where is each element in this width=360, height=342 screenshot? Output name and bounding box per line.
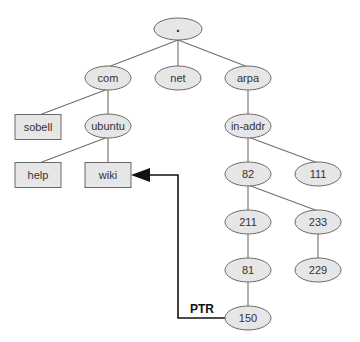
- node-help: help: [15, 163, 61, 188]
- node-label: wiki: [98, 169, 117, 181]
- node-n81: 81: [225, 258, 271, 282]
- node-n233: 233: [295, 210, 341, 234]
- ptr-arrow-line: [149, 175, 225, 318]
- node-label: net: [170, 72, 185, 84]
- node-label: com: [98, 72, 119, 84]
- node-n150: 150: [225, 306, 271, 330]
- ptr-pointer: PTR: [131, 168, 225, 318]
- node-inaddr: in-addr: [225, 114, 271, 138]
- node-label: 81: [242, 264, 254, 276]
- node-sobell: sobell: [15, 115, 61, 140]
- edge-root-arpa: [178, 40, 248, 67]
- node-label: 82: [242, 168, 254, 180]
- edge-inaddr-n111: [248, 137, 318, 163]
- dns-tree-diagram: PTR .comnetarpasobellubuntuin-addrhelpwi…: [0, 0, 360, 342]
- node-label: sobell: [24, 121, 53, 133]
- node-wiki: wiki: [85, 163, 131, 188]
- node-n111: 111: [295, 162, 341, 186]
- node-label: 229: [309, 264, 327, 276]
- node-root: .: [154, 18, 202, 40]
- node-arpa: arpa: [225, 66, 271, 90]
- node-net: net: [155, 66, 201, 90]
- arrowhead-icon: [131, 168, 150, 182]
- node-label: 111: [310, 168, 327, 180]
- node-label: arpa: [237, 72, 260, 84]
- node-label: in-addr: [231, 120, 266, 132]
- node-ubuntu: ubuntu: [85, 114, 131, 138]
- node-n211: 211: [225, 210, 271, 234]
- node-n229: 229: [295, 258, 341, 282]
- node-label: help: [28, 169, 49, 181]
- node-n82: 82: [225, 162, 271, 186]
- node-label: 233: [309, 216, 327, 228]
- node-com: com: [85, 66, 131, 90]
- edge-ubuntu-help: [38, 137, 108, 164]
- edge-n82-n233: [248, 185, 318, 211]
- node-label: 211: [239, 216, 257, 228]
- edge-com-sobell: [38, 89, 108, 116]
- node-label: .: [176, 19, 180, 35]
- node-label: ubuntu: [91, 120, 125, 132]
- edge-root-com: [108, 40, 178, 67]
- ptr-label: PTR: [190, 302, 214, 316]
- node-label: 150: [239, 312, 257, 324]
